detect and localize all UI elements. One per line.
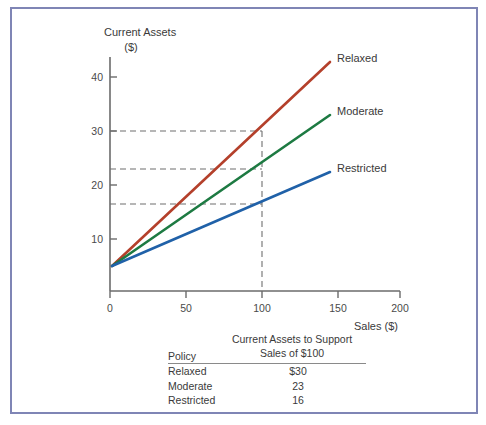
table-cell-value: 16: [230, 394, 366, 408]
series-label-restricted: Restricted: [337, 162, 387, 174]
table-cell-policy: Moderate: [168, 380, 230, 394]
series-label-relaxed: Relaxed: [337, 52, 377, 64]
table-header-policy: Policy: [168, 350, 196, 362]
summary-table: Current Assets to Support Sales of $100 …: [168, 332, 366, 408]
x-axis-title: Sales ($): [354, 320, 398, 332]
table-header-right-line1: Current Assets to Support: [218, 332, 366, 346]
x-tick-label-0: 0: [107, 302, 113, 314]
table-row: Restricted 16: [168, 393, 366, 408]
table-cell-policy: Relaxed: [168, 365, 230, 379]
x-tick-label-150: 150: [329, 302, 347, 314]
table-header: Current Assets to Support Sales of $100 …: [168, 332, 366, 362]
x-tick-label-200: 200: [391, 302, 409, 314]
table-header-right: Current Assets to Support Sales of $100: [218, 332, 366, 360]
y-axis-title-line1: Current Assets: [104, 26, 177, 38]
x-tick-label-50: 50: [180, 302, 192, 314]
table-cell-policy: Restricted: [168, 394, 230, 408]
y-tick-label-10: 10: [91, 233, 103, 245]
table-header-right-line2: Sales of $100: [218, 346, 366, 360]
x-tick-label-100: 100: [253, 302, 271, 314]
table-cell-value: $30: [230, 365, 366, 379]
series-line-moderate: [112, 115, 330, 266]
y-tick-label-20: 20: [91, 179, 103, 191]
y-axis-title-line2: ($): [124, 41, 137, 53]
table-row: Relaxed $30: [168, 364, 366, 379]
table-row: Moderate 23: [168, 379, 366, 394]
y-tick-label-30: 30: [91, 125, 103, 137]
series-line-restricted: [112, 172, 330, 266]
series-label-moderate: Moderate: [337, 105, 383, 117]
series-line-relaxed: [112, 62, 330, 266]
table-cell-value: 23: [230, 380, 366, 394]
y-tick-label-40: 40: [91, 71, 103, 83]
